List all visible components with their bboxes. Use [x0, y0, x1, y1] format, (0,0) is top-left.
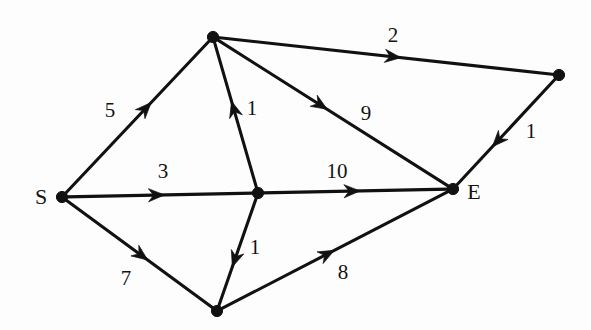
edge-weight-label-s-c: 3 — [158, 159, 169, 184]
edge-weight-label-s-b: 7 — [121, 266, 132, 291]
arrowhead-icon-s-b — [131, 245, 148, 260]
graph-node-e — [447, 183, 458, 194]
edge-weight-label-t-e: 9 — [361, 101, 372, 126]
graph-figure: 53711102918SE — [0, 0, 591, 330]
edge-weight-label-c-e: 10 — [327, 159, 348, 184]
nodes-group — [56, 31, 564, 316]
arrowhead-icon-t-e — [310, 95, 327, 109]
edge-weight-label-b-e: 8 — [338, 260, 349, 285]
edge-weight-label-s-t: 5 — [105, 98, 116, 123]
graph-node-t — [207, 31, 218, 42]
graph-node-s — [56, 191, 67, 202]
edge-weight-label-r-e: 1 — [526, 119, 537, 144]
graph-node-c — [252, 187, 263, 198]
node-label-e: E — [467, 179, 480, 205]
graph-node-b — [211, 305, 222, 316]
edge-weight-label-c-b: 1 — [250, 235, 261, 260]
node-label-s: S — [35, 184, 47, 210]
edges-group — [65, 37, 556, 308]
edge-weight-label-t-r: 2 — [388, 23, 399, 48]
graph-canvas — [0, 0, 591, 330]
graph-edge-r-e — [456, 78, 556, 185]
graph-edge-s-t — [65, 40, 210, 193]
graph-node-r — [553, 69, 564, 80]
arrowheads-group — [131, 49, 508, 267]
graph-edge-t-r — [217, 37, 554, 74]
edge-weight-label-c-t: 1 — [247, 96, 258, 121]
